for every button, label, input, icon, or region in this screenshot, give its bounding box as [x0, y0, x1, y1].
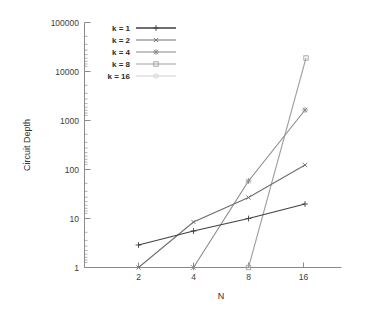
- data-point: [302, 107, 308, 113]
- data-point: [303, 163, 307, 167]
- data-point: [191, 228, 197, 234]
- y-axis-ticks: [85, 23, 91, 268]
- data-point: [136, 242, 142, 248]
- x-tick-label: 8: [246, 272, 251, 282]
- legend-label-k-2: k = 2: [112, 36, 131, 45]
- series-k-8: [246, 56, 308, 270]
- data-point: [191, 265, 197, 271]
- y-tick-label: 100: [65, 165, 79, 175]
- chart-figure: 100000 10000 1000 100 10 1 2 4 8 16 N Ci…: [0, 0, 373, 313]
- x-tick-labels: 2 4 8 16: [136, 272, 308, 282]
- series-k-2: [136, 163, 307, 270]
- x-tick-label: 4: [191, 272, 196, 282]
- x-axis-title: N: [218, 291, 225, 301]
- chart-legend: k = 1 k = 2 k = 4 k = 8 k = 16: [108, 24, 176, 81]
- series-line: [139, 165, 306, 268]
- y-tick-label: 100000: [51, 18, 80, 28]
- legend-label-k-4: k = 4: [112, 48, 131, 57]
- data-point: [246, 178, 252, 184]
- y-tick-label: 1000: [60, 116, 79, 126]
- legend-label-k-16: k = 16: [108, 72, 131, 81]
- y-tick-label: 10: [70, 214, 80, 224]
- y-tick-label: 1: [74, 263, 79, 273]
- legend-marker-k-4: [153, 49, 159, 55]
- data-point: [191, 220, 195, 224]
- series-line: [194, 110, 306, 268]
- series-k-4: [191, 107, 308, 270]
- series-k-1: [136, 201, 308, 248]
- line-chart-svg: 100000 10000 1000 100 10 1 2 4 8 16 N Ci…: [0, 0, 373, 313]
- y-tick-label: 10000: [55, 67, 79, 77]
- y-tick-labels: 100000 10000 1000 100 10 1: [51, 18, 80, 273]
- x-axis-ticks: [139, 263, 304, 268]
- legend-label-k-1: k = 1: [112, 24, 131, 33]
- series-markers: [191, 107, 308, 270]
- y-axis-title: Circuit Depth: [22, 119, 32, 171]
- series-line: [249, 58, 307, 268]
- data-point: [246, 216, 252, 222]
- series-line: [139, 204, 306, 245]
- data-point: [302, 201, 308, 207]
- x-tick-label: 2: [136, 272, 141, 282]
- x-tick-label: 16: [299, 272, 309, 282]
- legend-marker-k-1: [153, 25, 159, 31]
- data-point: [246, 195, 250, 199]
- legend-label-k-8: k = 8: [112, 60, 131, 69]
